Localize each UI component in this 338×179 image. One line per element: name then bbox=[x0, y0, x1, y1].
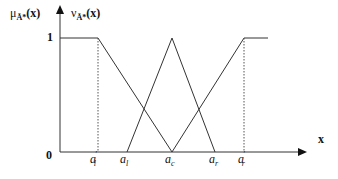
x-axis-label: x bbox=[318, 132, 324, 147]
non-membership-axis-label: νÃ*(x) bbox=[71, 6, 100, 22]
x-axis-arrow-icon bbox=[298, 148, 307, 156]
tick-subscript: c bbox=[171, 159, 175, 168]
x-tick-a-c: ac bbox=[165, 152, 175, 168]
x-tick-a-r-prime: a′r bbox=[238, 152, 245, 168]
nu-argument: (x) bbox=[86, 6, 100, 20]
x-tick-a-r: ar bbox=[209, 152, 218, 168]
x-tick-a-l-prime: a′l bbox=[90, 152, 96, 168]
mu-argument: (x) bbox=[26, 6, 40, 20]
x-tick-a-l: al bbox=[120, 152, 128, 168]
nu-subscript: Ã* bbox=[76, 13, 86, 22]
y-axis-arrow-icon bbox=[56, 5, 64, 14]
tick-prime: ′ bbox=[243, 150, 245, 159]
mu-subscript: Ã* bbox=[16, 13, 26, 22]
tick-subscript: r bbox=[242, 159, 245, 168]
membership-curve bbox=[127, 38, 215, 152]
tick-subscript: r bbox=[215, 159, 218, 168]
y-tick-one: 1 bbox=[47, 30, 53, 45]
non-membership-curve bbox=[60, 38, 268, 152]
membership-axis-label: μÃ*(x) bbox=[10, 6, 40, 22]
tick-subscript: l bbox=[126, 159, 128, 168]
y-tick-zero: 0 bbox=[46, 148, 52, 163]
tick-prime: ′ bbox=[95, 150, 97, 159]
tick-subscript: l bbox=[94, 159, 96, 168]
